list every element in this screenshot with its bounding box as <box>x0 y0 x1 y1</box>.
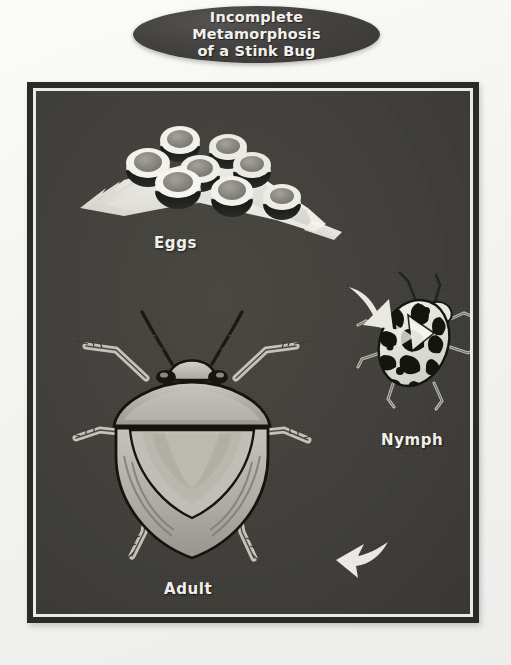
stage-adult-illustration <box>68 306 318 586</box>
arrow-eggs-to-nymph <box>343 281 405 337</box>
stage-eggs-illustration <box>76 116 376 246</box>
poster-page: Incomplete Metamorphosis of a Stink Bug <box>0 0 511 665</box>
stage-label-eggs: Eggs <box>154 234 197 252</box>
life-cycle-scene: Eggs Nymph Adult <box>36 91 470 614</box>
page-title: Incomplete Metamorphosis of a Stink Bug <box>133 9 380 60</box>
poster-frame-inner-line: Eggs Nymph Adult <box>33 88 473 617</box>
stage-label-nymph: Nymph <box>381 431 443 449</box>
stage-label-adult: Adult <box>164 580 212 598</box>
arrow-nymph-to-adult <box>332 538 394 588</box>
poster-frame: Eggs Nymph Adult <box>27 82 479 623</box>
title-banner: Incomplete Metamorphosis of a Stink Bug <box>133 6 380 63</box>
adult-antennae <box>142 312 242 364</box>
